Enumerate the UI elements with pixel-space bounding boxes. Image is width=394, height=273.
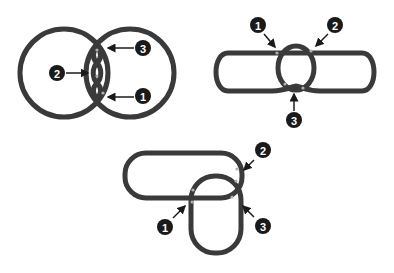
arrow-1	[173, 206, 185, 218]
badge-number: 1	[255, 20, 261, 32]
stadium-loop	[216, 53, 374, 91]
crossing-highlight	[95, 74, 98, 77]
figure-1-overlapping-circles: 3 2 1	[20, 29, 174, 117]
figure-2-stadium-and-oval: 1 2 3	[216, 17, 374, 128]
crossing-highlight	[191, 188, 194, 191]
crossing-highlight	[301, 86, 304, 89]
badge-number: 2	[332, 20, 338, 32]
label-badge-2: 2	[255, 142, 271, 158]
crossing-highlight	[234, 179, 237, 182]
crossing-highlight	[275, 51, 278, 54]
label-badge-2: 2	[49, 65, 65, 81]
diagram-canvas: 3 2 1 1 2 3	[0, 0, 394, 273]
label-badge-1: 1	[157, 219, 173, 235]
badge-number: 3	[260, 221, 266, 233]
figure-3-overlapping-rounded-rects: 1 2 3	[125, 142, 271, 253]
arrow-3	[243, 206, 254, 217]
crossing-highlight	[235, 167, 238, 170]
badge-number: 2	[54, 68, 60, 80]
label-badge-3: 3	[135, 40, 151, 56]
badge-number: 1	[162, 222, 168, 234]
crossing-highlight	[95, 48, 98, 51]
label-badge-1: 1	[250, 17, 266, 33]
arrow-2	[244, 160, 254, 170]
badge-number: 2	[260, 145, 266, 157]
badge-number: 3	[291, 115, 297, 127]
crossing-highlight	[101, 91, 104, 94]
label-badge-2: 2	[327, 17, 343, 33]
badge-number: 3	[140, 43, 146, 55]
vertical-rounded-loop	[191, 176, 241, 253]
label-badge-3: 3	[255, 218, 271, 234]
crossing-highlight	[309, 49, 312, 52]
crossing-highlight	[283, 82, 286, 85]
label-badge-3: 3	[286, 112, 302, 128]
crossing-highlight	[230, 195, 233, 198]
arrow-1	[264, 34, 275, 47]
badge-number: 1	[140, 91, 146, 103]
arrow-2	[316, 34, 328, 46]
crossing-highlight	[190, 200, 193, 203]
label-badge-1: 1	[135, 88, 151, 104]
